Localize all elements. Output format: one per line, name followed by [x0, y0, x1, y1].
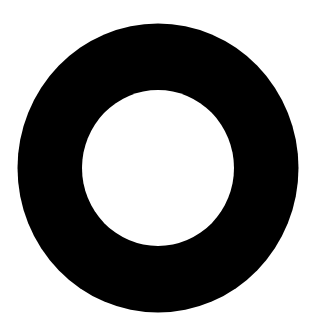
ring-figure [0, 0, 316, 332]
ring-inner-hole [82, 90, 234, 246]
